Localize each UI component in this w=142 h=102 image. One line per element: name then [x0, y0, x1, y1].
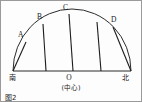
center-note-label: (中心) — [61, 83, 80, 92]
sun-path-line-mid — [97, 22, 101, 71]
figure-container: A B C D 南 北 O (中心) 图2 — [0, 0, 142, 102]
sun-path-line-d — [113, 27, 131, 71]
point-label-d: D — [111, 15, 117, 24]
direction-label-south: 南 — [9, 73, 16, 82]
sun-path-line-c — [69, 14, 73, 71]
celestial-dome-diagram: A B C D 南 北 O (中心) 图2 — [1, 1, 142, 102]
sun-path-line-b — [43, 24, 46, 71]
point-label-a: A — [18, 30, 24, 39]
point-label-b: B — [37, 12, 42, 21]
point-label-c: C — [63, 3, 68, 12]
direction-label-north: 北 — [122, 74, 129, 82]
center-marker-label: O — [66, 73, 72, 82]
figure-caption: 图2 — [5, 94, 16, 102]
